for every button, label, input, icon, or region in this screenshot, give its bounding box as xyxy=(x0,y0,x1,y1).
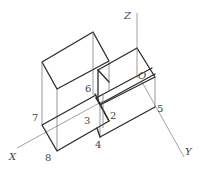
left-slab-mid-edge xyxy=(100,74,155,104)
label-point-7: 7 xyxy=(32,112,38,123)
label-point-8: 8 xyxy=(45,152,51,163)
y-axis xyxy=(142,82,184,157)
tall-box-top-face xyxy=(42,32,109,89)
right-box-lower-left xyxy=(97,128,100,137)
label-point-5: 5 xyxy=(157,103,163,114)
diagonal-edge-6-2 xyxy=(95,94,109,121)
label-point-2: 2 xyxy=(110,110,116,121)
label-y: Y xyxy=(185,146,193,157)
label-x: X xyxy=(8,151,17,162)
isometric-diagram: Z O X Y 2 3 4 5 6 7 8 xyxy=(0,0,204,173)
label-z: Z xyxy=(123,10,132,21)
label-point-4: 4 xyxy=(95,139,101,150)
label-origin: O xyxy=(138,70,146,81)
label-point-6: 6 xyxy=(85,83,91,94)
label-point-3: 3 xyxy=(84,115,90,126)
right-box-inner-top xyxy=(98,70,109,82)
labels: Z O X Y 2 3 4 5 6 7 8 xyxy=(8,10,193,163)
